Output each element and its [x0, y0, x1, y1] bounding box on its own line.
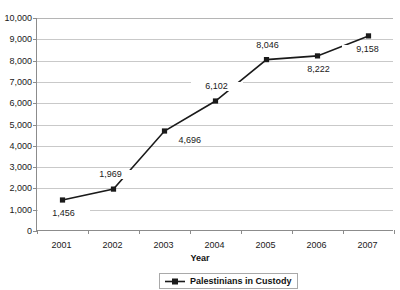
x-axis-title: Year	[0, 253, 400, 263]
series-palestinians-in-custody	[37, 18, 394, 231]
x-axis-tick-label: 2007	[343, 240, 393, 250]
data-point-label: 6,102	[191, 82, 243, 91]
data-point-label: 8,222	[293, 65, 345, 74]
data-point-label: 1,456	[38, 209, 90, 218]
y-axis-tick-label: 0	[0, 227, 32, 236]
data-point-marker	[213, 98, 218, 103]
y-axis-tick-label: 4,000	[0, 142, 32, 151]
legend-line-marker-icon	[164, 277, 186, 286]
y-axis-tick-label: 5,000	[0, 121, 32, 130]
data-point-label: 4,696	[178, 136, 203, 145]
y-axis-tick-label: 7,000	[0, 78, 32, 87]
y-axis-tick-label: 6,000	[0, 99, 32, 108]
data-point-label: 8,046	[242, 41, 294, 50]
y-axis-tick-label: 2,000	[0, 184, 32, 193]
data-point-label: 1,969	[85, 170, 137, 179]
plot-area: 1,4561,9694,6966,1028,0468,2229,158	[36, 18, 393, 231]
x-axis-tick	[394, 230, 395, 234]
line-chart: 1,4561,9694,6966,1028,0468,2229,158 01,0…	[0, 0, 400, 290]
chart-legend: Palestinians in Custody	[159, 273, 298, 289]
x-axis-tick-label: 2006	[292, 240, 342, 250]
data-point-marker	[111, 187, 116, 192]
data-point-marker	[162, 128, 167, 133]
data-point-marker	[264, 57, 269, 62]
x-axis-tick-label: 2001	[37, 240, 87, 250]
legend-entry-label: Palestinians in Custody	[190, 276, 292, 286]
y-axis-tick-label: 1,000	[0, 206, 32, 215]
data-point-marker	[366, 33, 371, 38]
data-point-marker	[315, 53, 320, 58]
data-point-marker	[60, 197, 65, 202]
x-axis-tick-label: 2003	[139, 240, 189, 250]
x-axis-tick-label: 2004	[190, 240, 240, 250]
x-axis-tick-label: 2005	[241, 240, 291, 250]
data-point-label: 9,158	[342, 45, 394, 54]
y-axis-tick-label: 3,000	[0, 163, 32, 172]
y-axis-tick-label: 9,000	[0, 35, 32, 44]
y-axis-tick-label: 10,000	[0, 14, 32, 23]
y-axis-tick-label: 8,000	[0, 57, 32, 66]
x-axis-tick-label: 2002	[88, 240, 138, 250]
